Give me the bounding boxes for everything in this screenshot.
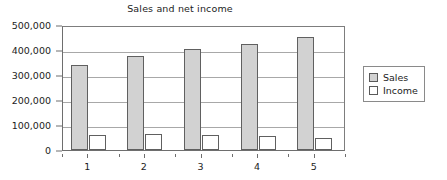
x-axis-tick-label: 1 <box>84 161 90 172</box>
y-axis-tick-label: 300,000 <box>12 71 51 81</box>
y-axis-tick-label: 200,000 <box>12 96 51 106</box>
x-axis-tick-label: 2 <box>141 161 147 172</box>
y-axis: 0100,000200,000300,000400,000500,000 <box>0 26 62 151</box>
x-axis-tick-mark <box>201 154 202 158</box>
bar-income-2 <box>145 134 162 150</box>
bar-sales-1 <box>71 65 88 150</box>
x-axis-tick-label: 3 <box>197 161 203 172</box>
y-axis-tick-label: 500,000 <box>12 21 51 31</box>
x-axis-minor-tick-mark <box>232 154 233 157</box>
y-axis-tick-label: 100,000 <box>12 121 51 131</box>
bar-income-1 <box>89 135 106 151</box>
y-axis-tick-label: 400,000 <box>12 46 51 56</box>
x-axis-tick-mark <box>144 154 145 158</box>
bar-income-3 <box>202 135 219 150</box>
legend-item-income: Income <box>369 84 418 97</box>
x-axis-tick-mark <box>314 154 315 158</box>
x-axis-minor-tick-mark <box>119 154 120 157</box>
x-axis-tick-label: 5 <box>311 161 317 172</box>
y-axis-tick-label: 0 <box>45 146 51 156</box>
bar-sales-3 <box>184 49 201 150</box>
chart-container: Sales and net income 0100,000200,000300,… <box>0 0 447 180</box>
x-axis-minor-tick-mark <box>345 154 346 157</box>
x-axis-tick-label: 4 <box>254 161 260 172</box>
x-axis: 12345 <box>62 154 345 174</box>
bar-sales-4 <box>241 44 258 150</box>
legend-item-label: Income <box>383 85 418 96</box>
x-axis-minor-tick-mark <box>175 154 176 157</box>
x-axis-minor-tick-mark <box>62 154 63 157</box>
x-axis-tick-mark <box>257 154 258 158</box>
chart-legend: SalesIncome <box>363 66 425 102</box>
x-axis-tick-mark <box>87 154 88 158</box>
x-axis-minor-tick-mark <box>288 154 289 157</box>
plot-area <box>62 26 345 151</box>
chart-title: Sales and net income <box>0 3 360 15</box>
legend-item-sales: Sales <box>369 71 418 84</box>
bar-sales-2 <box>127 56 144 150</box>
bar-income-5 <box>315 138 332 150</box>
bar-income-4 <box>259 136 276 150</box>
bar-sales-5 <box>297 37 314 150</box>
legend-swatch-icon <box>369 86 378 95</box>
bars-layer <box>63 27 344 150</box>
legend-swatch-icon <box>369 73 378 82</box>
legend-item-label: Sales <box>383 72 408 83</box>
